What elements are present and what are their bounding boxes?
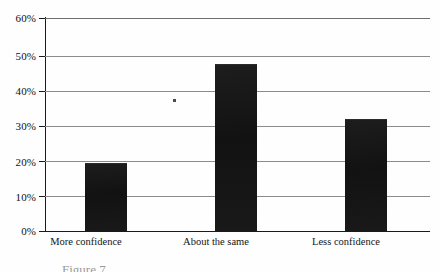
y-tick-label-40: 40% <box>0 86 36 97</box>
y-tick-label-20: 20% <box>0 157 36 168</box>
bar-cap <box>85 163 127 164</box>
figure-caption: Figure 7 <box>62 262 106 272</box>
gridline-50 <box>45 56 430 57</box>
gridline-60 <box>45 18 430 19</box>
y-tick-label-30: 30% <box>0 121 36 132</box>
scan-artifact-speck <box>173 99 176 102</box>
bar-chart-figure: 60% 50% 40% 30% 20% 10% 0% <box>0 0 440 272</box>
y-tick-label-50: 50% <box>0 51 36 62</box>
x-category-label-more-confidence: More confidence <box>43 236 129 248</box>
bar-cap <box>345 119 387 120</box>
bar-less-confidence <box>345 119 387 231</box>
y-axis-labels: 60% 50% 40% 30% 20% 10% 0% <box>0 0 36 272</box>
x-axis-line <box>45 231 430 232</box>
y-tick-label-60: 60% <box>0 13 36 24</box>
plot-area <box>45 18 430 231</box>
bar-more-confidence <box>85 163 127 231</box>
x-category-label-less-confidence: Less confidence <box>304 236 388 248</box>
bar-cap <box>215 64 257 65</box>
y-tick-label-10: 10% <box>0 192 36 203</box>
y-tick-label-0: 0% <box>0 226 36 237</box>
bar-about-the-same <box>215 64 257 231</box>
x-category-label-about-the-same: About the same <box>175 236 257 248</box>
